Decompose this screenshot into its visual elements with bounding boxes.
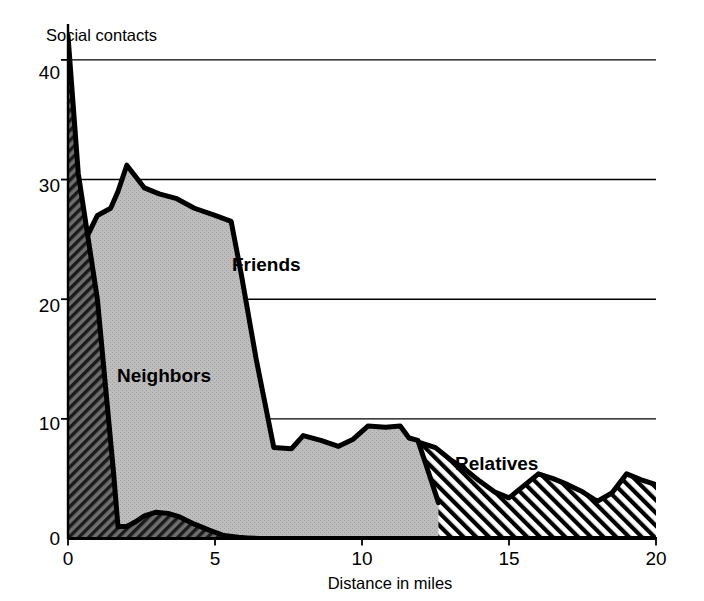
- x-tick-label-15: 15: [498, 548, 519, 569]
- social-contacts-area-chart: 40 30 20 10 0 0 5 10 15 20 Social contac…: [0, 0, 704, 601]
- series-label-friends: Friends: [232, 254, 301, 275]
- y-tick-label-0: 0: [49, 528, 60, 549]
- y-tick-label-10: 10: [39, 413, 60, 434]
- x-tick-label-20: 20: [645, 548, 666, 569]
- y-axis-title: Social contacts: [46, 26, 157, 44]
- series-label-relatives: Relatives: [455, 453, 538, 474]
- y-tick-label-40: 40: [39, 62, 60, 83]
- x-axis-title: Distance in miles: [328, 574, 453, 592]
- chart-container: 40 30 20 10 0 0 5 10 15 20 Social contac…: [0, 0, 704, 601]
- y-tick-label-30: 30: [39, 175, 60, 196]
- x-tick-label-0: 0: [63, 548, 74, 569]
- series-label-neighbors: Neighbors: [117, 365, 211, 386]
- x-tick-label-10: 10: [351, 548, 372, 569]
- x-tick-label-5: 5: [210, 548, 221, 569]
- y-tick-label-20: 20: [39, 295, 60, 316]
